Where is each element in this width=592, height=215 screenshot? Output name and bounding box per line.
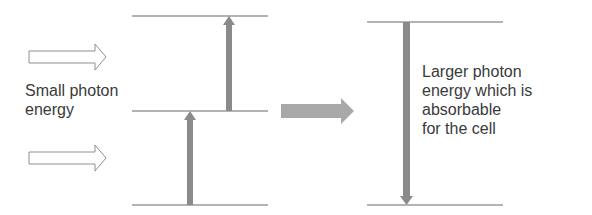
photon-arrow-top-icon xyxy=(29,44,106,70)
label-line: Larger photon xyxy=(422,62,532,81)
label-line: for the cell xyxy=(422,119,532,138)
label-line: energy xyxy=(25,100,118,119)
label-line: Small photon xyxy=(25,81,118,100)
transition-arrow-icon xyxy=(281,98,354,124)
long-arrow-icon xyxy=(400,22,413,205)
label-line: energy which is xyxy=(422,81,532,100)
larger-photon-energy-label: Larger photon energy which is absorbable… xyxy=(422,62,532,138)
label-line: absorbable xyxy=(422,100,532,119)
photon-arrow-bottom-icon xyxy=(29,145,106,171)
up-arrow-upper-icon xyxy=(223,16,235,111)
small-photon-energy-label: Small photon energy xyxy=(25,81,118,119)
up-arrow-lower-icon xyxy=(184,111,196,205)
